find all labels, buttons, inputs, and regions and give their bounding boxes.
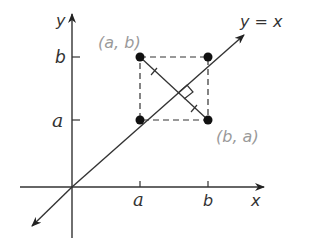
reflection-diagram: y x b a a b y = x (a, b) (b, a)	[0, 0, 321, 247]
point-label-b-a: (b, a)	[216, 127, 259, 146]
x-axis-label: x	[250, 191, 261, 210]
point-a-a	[136, 116, 145, 125]
x-tick-label-a: a	[133, 189, 144, 210]
x-tick-label-b: b	[203, 191, 213, 210]
y-tick-label-b: b	[55, 47, 66, 67]
line-y-equals-x	[72, 35, 244, 187]
y-axis-label: y	[55, 11, 66, 30]
line-y-equals-x-lower	[32, 187, 72, 226]
y-tick-label-a: a	[52, 109, 63, 131]
reflection-segment	[140, 57, 208, 120]
point-a-b	[136, 53, 145, 62]
point-b-b	[204, 53, 213, 62]
point-label-a-b: (a, b)	[98, 33, 141, 52]
line-label: y = x	[239, 12, 283, 31]
point-b-a	[204, 116, 213, 125]
